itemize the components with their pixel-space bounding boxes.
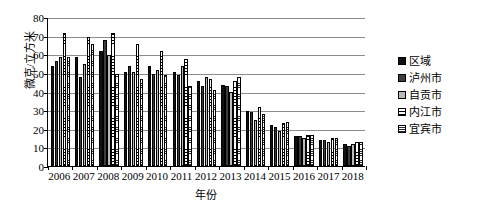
- x-tick-mark: [366, 166, 367, 170]
- bar: [250, 112, 253, 166]
- bar: [59, 57, 62, 166]
- y-tick-label: 20: [33, 124, 44, 135]
- bar-group: [341, 18, 365, 166]
- y-tick-label: 60: [33, 50, 44, 61]
- bar-group: [121, 18, 145, 166]
- bar: [51, 66, 54, 166]
- bar: [209, 79, 212, 166]
- bar: [278, 131, 281, 166]
- y-tick-label: 50: [33, 68, 44, 79]
- legend-label: 自贡市: [409, 89, 442, 101]
- x-tick-label: 2009: [120, 170, 144, 182]
- bar: [233, 81, 236, 166]
- x-tick-label: 2006: [47, 170, 71, 182]
- x-tick-label: 2010: [145, 170, 169, 182]
- bar: [213, 90, 216, 166]
- bar: [274, 127, 277, 166]
- bar: [99, 51, 102, 166]
- x-tick-label: 2018: [341, 170, 365, 182]
- bar: [79, 77, 82, 166]
- y-tick-label: 30: [33, 106, 44, 117]
- x-tick-label: 2015: [267, 170, 291, 182]
- x-tick-label: 2011: [169, 170, 193, 182]
- legend-item: 宜宾市: [398, 120, 476, 137]
- y-tick-label: 70: [33, 31, 44, 42]
- bar-group: [146, 18, 170, 166]
- bar: [343, 144, 346, 166]
- x-tick-label: 2017: [316, 170, 340, 182]
- legend-label: 泸州市: [409, 72, 442, 84]
- bar: [136, 44, 139, 166]
- bar: [359, 142, 362, 166]
- legend-swatch-icon: [398, 125, 406, 133]
- x-axis-title: 年份: [47, 186, 365, 202]
- bar-group: [243, 18, 267, 166]
- bar: [294, 136, 297, 166]
- bar: [148, 66, 151, 166]
- legend-swatch-icon: [398, 108, 406, 116]
- legend-item: 内江市: [398, 103, 476, 120]
- bar-group: [170, 18, 194, 166]
- chart-legend: 区域泸州市自贡市内江市宜宾市: [398, 52, 476, 137]
- legend-item: 泸州市: [398, 69, 476, 86]
- bar: [225, 86, 228, 166]
- chart-figure: 微克/立方米 01020304050607080 200620072008200…: [0, 0, 478, 216]
- bar: [124, 72, 127, 166]
- x-tick-label: 2014: [243, 170, 267, 182]
- bar: [164, 75, 167, 166]
- bar-group: [219, 18, 243, 166]
- legend-swatch-icon: [398, 57, 406, 65]
- bar: [140, 79, 143, 166]
- bar: [262, 114, 265, 166]
- bar: [160, 51, 163, 166]
- bar: [205, 77, 208, 166]
- bar: [103, 40, 106, 166]
- bar: [132, 72, 135, 166]
- bar: [298, 136, 301, 166]
- legend-label: 宜宾市: [409, 123, 442, 135]
- x-axis-labels: 2006200720082009201020112012201320142015…: [47, 170, 365, 182]
- bar: [184, 59, 187, 166]
- bar: [323, 140, 326, 166]
- bar: [246, 111, 249, 167]
- y-tick-label: 10: [33, 143, 44, 154]
- bar: [111, 33, 114, 166]
- bar-group: [72, 18, 96, 166]
- bar: [310, 135, 313, 166]
- bar: [201, 86, 204, 166]
- bar: [331, 138, 334, 166]
- bar: [286, 122, 289, 166]
- bar: [258, 107, 261, 166]
- bar: [302, 138, 305, 166]
- bar: [188, 86, 191, 166]
- bar: [91, 44, 94, 166]
- legend-label: 区域: [409, 55, 431, 67]
- bar: [327, 142, 330, 166]
- bar-group: [316, 18, 340, 166]
- bar-group: [268, 18, 292, 166]
- bar: [128, 66, 131, 166]
- bar: [177, 75, 180, 166]
- y-tick-label: 80: [33, 13, 44, 24]
- bar: [221, 85, 224, 166]
- bar: [75, 57, 78, 166]
- legend-item: 自贡市: [398, 86, 476, 103]
- bar: [319, 140, 322, 166]
- bar: [347, 146, 350, 166]
- bar-group: [48, 18, 72, 166]
- x-tick-label: 2007: [71, 170, 95, 182]
- bar: [282, 123, 285, 166]
- legend-item: 区域: [398, 52, 476, 69]
- bar: [55, 61, 58, 166]
- bar: [156, 70, 159, 166]
- bar: [115, 74, 118, 167]
- bar: [355, 142, 358, 166]
- plot-area: 01020304050607080: [47, 18, 365, 167]
- x-tick-label: 2012: [194, 170, 218, 182]
- bar: [63, 33, 66, 166]
- bar: [67, 57, 70, 166]
- bar-group: [97, 18, 121, 166]
- bar: [87, 37, 90, 167]
- bar-groups: [48, 18, 365, 166]
- bar: [83, 64, 86, 166]
